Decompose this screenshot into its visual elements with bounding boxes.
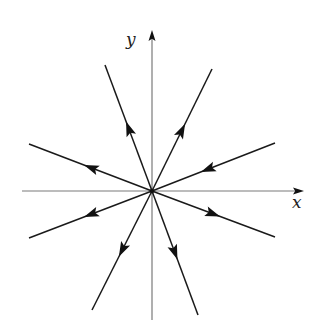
ray-lower-left-steep bbox=[92, 191, 152, 310]
ray-upper-left-steep bbox=[105, 65, 152, 191]
x-axis-label: x bbox=[292, 192, 302, 212]
direction-arrow-icon bbox=[119, 241, 130, 257]
ray-upper-left-shallow bbox=[29, 144, 152, 191]
ray-lower-right-steep bbox=[152, 191, 198, 315]
y-axis-label: y bbox=[125, 29, 136, 49]
ray-lower-right-shallow bbox=[152, 191, 275, 237]
ray-upper-right-shallow bbox=[152, 143, 275, 191]
ray-lower-left-shallow bbox=[29, 191, 152, 238]
direction-arrow-icon bbox=[174, 124, 185, 140]
axes bbox=[22, 30, 304, 320]
origin-point bbox=[150, 189, 154, 193]
phase-portrait-diagram: x y bbox=[0, 0, 323, 336]
ray-upper-right-steep bbox=[152, 69, 212, 191]
